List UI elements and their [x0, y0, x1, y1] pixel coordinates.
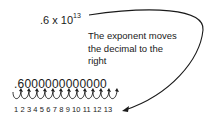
caption-line-2: the decimal to the — [88, 43, 198, 56]
expanded-number: .6000000000000 — [14, 77, 107, 91]
expression-base: .6 x 10 — [40, 14, 73, 26]
scientific-expression: .6 x 1013 — [40, 13, 81, 26]
caption-line-3: right — [88, 55, 198, 68]
expression-exponent: 13 — [73, 12, 81, 19]
exponent-arrowhead — [122, 106, 129, 112]
caption-line-1: The exponent moves — [88, 30, 198, 43]
explanation-caption: The exponent moves the decimal to the ri… — [88, 30, 198, 68]
hop-arrows — [13, 91, 117, 99]
place-count-labels: 1 2 3 4 5 6 7 8 9 10 11 12 13 — [14, 105, 112, 114]
